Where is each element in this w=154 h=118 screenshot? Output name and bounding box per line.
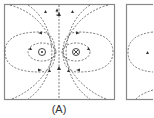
- conductor-in-icon: [73, 49, 80, 56]
- panel-a: [5, 5, 115, 100]
- panel-a-label: (A): [44, 103, 74, 115]
- panel-b-partial: [127, 5, 154, 100]
- conductor-out-icon: [39, 49, 46, 56]
- field-diagram: [0, 0, 153, 118]
- panel-a-frame: [5, 5, 115, 100]
